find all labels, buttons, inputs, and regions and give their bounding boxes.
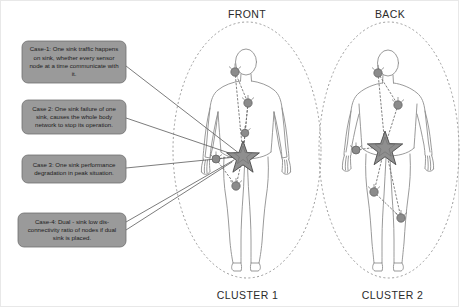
front-chest-node[interactable]: [242, 95, 254, 107]
cluster-2-sink-star[interactable]: [367, 131, 402, 165]
cluster-1-label: CLUSTER 1: [200, 289, 295, 301]
link-head-to-chest: [235, 72, 248, 103]
front-abdomen-node[interactable]: [240, 126, 251, 137]
leader-case-1: [126, 66, 240, 154]
back-right-leg-node[interactable]: [395, 210, 407, 222]
back-view-title: BACK: [355, 8, 425, 20]
back-body-figure: [342, 50, 433, 271]
callout-box-case-1[interactable]: [22, 41, 126, 83]
front-wrist-node[interactable]: [210, 152, 222, 164]
back-head-node[interactable]: [372, 65, 384, 77]
diagram-svg: [0, 0, 460, 308]
diagram-canvas: Case-1: One sink traffic happens on sink…: [0, 0, 460, 308]
callout-leader-lines: [126, 66, 240, 230]
callout-box-case-4[interactable]: [18, 213, 126, 247]
back-left-leg-node[interactable]: [368, 184, 380, 196]
front-view-title: FRONT: [212, 8, 282, 20]
callout-box-case-2[interactable]: [22, 100, 126, 134]
cluster-1-sink-star[interactable]: [227, 141, 260, 172]
cluster-1-ellipse: [173, 22, 321, 278]
link-head-to-sink: [235, 72, 243, 155]
leader-case-2: [126, 118, 238, 156]
front-thigh-node[interactable]: [230, 178, 242, 190]
leader-case-4b: [126, 162, 232, 230]
cluster-2-label: CLUSTER 2: [345, 289, 440, 301]
callout-boxes: [18, 41, 126, 247]
leader-case-4: [126, 160, 234, 222]
front-head-node[interactable]: [229, 64, 241, 77]
callout-box-case-3[interactable]: [22, 155, 126, 183]
